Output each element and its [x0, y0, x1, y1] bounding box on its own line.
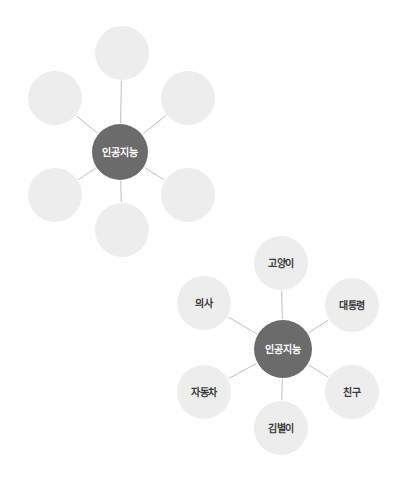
hub-node-label: 인공지능	[265, 344, 300, 355]
node-blank[interactable]	[161, 168, 215, 222]
edge-connector	[78, 168, 95, 180]
node-label: 김별이	[268, 423, 294, 434]
hub-node-diagram-labeled[interactable]: 인공지능	[254, 320, 312, 378]
node-label: 고양이	[268, 258, 294, 269]
node-친구[interactable]: 친구	[325, 365, 379, 419]
node-blank[interactable]	[28, 71, 82, 125]
edge-connector	[121, 81, 122, 123]
node-고양이[interactable]: 고양이	[254, 236, 308, 290]
node-label: 대통령	[339, 300, 365, 311]
edge-connector	[282, 291, 283, 319]
node-김별이[interactable]: 김별이	[254, 401, 308, 455]
diagram-canvas: 인공지능고양이대통령친구김별이자동차의사인공지능	[0, 0, 410, 497]
hub-node-diagram-unlabeled[interactable]: 인공지능	[92, 124, 148, 180]
node-label: 자동차	[191, 387, 217, 398]
node-label: 의사	[195, 298, 213, 309]
edge-connector	[308, 320, 328, 333]
edge-connector	[229, 363, 257, 378]
node-자동차[interactable]: 자동차	[177, 365, 231, 419]
node-blank[interactable]	[95, 203, 149, 257]
edge-connector	[228, 317, 257, 334]
edge-connector	[145, 168, 165, 181]
edge-connector	[282, 379, 283, 400]
edge-connector	[121, 181, 122, 202]
hub-node-label: 인공지능	[102, 147, 137, 158]
node-의사[interactable]: 의사	[177, 276, 231, 330]
edge-connector	[143, 115, 166, 134]
node-label: 친구	[343, 387, 361, 398]
edge-connector	[308, 365, 328, 377]
node-blank[interactable]	[161, 71, 215, 125]
node-대통령[interactable]: 대통령	[325, 278, 379, 332]
node-blank[interactable]	[28, 168, 82, 222]
node-blank[interactable]	[95, 26, 149, 80]
edge-connector	[77, 116, 98, 134]
